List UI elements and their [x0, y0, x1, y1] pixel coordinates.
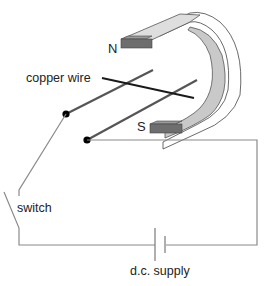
switch-label: switch [17, 202, 52, 215]
north-pole [121, 36, 152, 48]
south-pole-label: S [137, 120, 146, 133]
circuit-wiring [4, 114, 257, 245]
wire-switch-to-cell [4, 192, 155, 245]
dc-cell [155, 228, 165, 261]
copper-wire-label: copper wire [26, 72, 91, 85]
diagram-canvas [0, 0, 271, 286]
motor-effect-diagram: N S copper wire switch d.c. supply [0, 0, 271, 286]
wire-lower-to-right [87, 140, 257, 245]
wire-upper-to-switch [19, 114, 66, 196]
north-pole-label: N [108, 42, 117, 55]
south-pole [150, 121, 182, 133]
supply-label: d.c. supply [130, 265, 190, 278]
